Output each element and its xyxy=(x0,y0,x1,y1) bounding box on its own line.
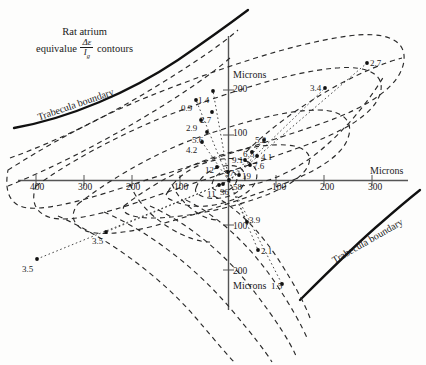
x-tick-label-100-left: 100 xyxy=(174,183,188,193)
data-point xyxy=(323,86,327,90)
x-tick-label-100-right: 100 xyxy=(272,183,286,193)
data-point xyxy=(221,182,225,186)
data-point-label: 11 xyxy=(207,190,216,199)
data-point-label: 2.7 xyxy=(200,116,211,125)
contour-arc-upper-1 xyxy=(10,30,238,158)
figure-container: Rat atrium equivalue Δε Ig contours xyxy=(0,0,426,365)
data-point xyxy=(205,130,209,134)
data-point xyxy=(35,257,39,261)
data-point-label: 0.9 xyxy=(181,104,192,113)
data-point-label: 9.1 xyxy=(232,156,243,165)
data-point-label: 3.9 xyxy=(249,216,260,225)
data-point xyxy=(215,165,219,169)
data-point xyxy=(365,61,369,65)
x-tick-label-300-right: 300 xyxy=(368,183,382,193)
y-tick-label-100-down: 100 xyxy=(233,222,247,232)
data-point xyxy=(248,163,252,167)
data-point-label: 5.6 xyxy=(192,136,203,145)
data-point-label: 36 xyxy=(220,188,229,197)
x-tick-label-300-left: 300 xyxy=(78,183,92,193)
contour-plot-svg xyxy=(0,0,426,365)
data-point-label: 6.5 xyxy=(243,150,254,159)
data-point-label: 2.7 xyxy=(370,59,381,68)
data-point-label: 5.2 xyxy=(255,136,266,145)
data-point-label: 7.6 xyxy=(253,162,264,171)
data-point xyxy=(104,230,108,234)
data-point-label: 1.5 xyxy=(271,282,282,291)
y-axis-unit-top: Microns xyxy=(233,70,266,80)
x-tick-label-200-right: 200 xyxy=(320,183,334,193)
equivalue-contours xyxy=(7,30,404,364)
x-tick-label-400-left: 400 xyxy=(30,183,44,193)
data-point-label: 4.1 xyxy=(261,153,272,162)
x-axis-unit-right: Microns xyxy=(370,166,403,176)
data-point-label: 19 xyxy=(242,172,251,181)
contour-arc-lower-5 xyxy=(58,216,236,364)
data-point xyxy=(211,89,215,93)
y-tick-label-200-down: 200 xyxy=(233,267,247,277)
y-axis-unit-bottom: Microns xyxy=(233,281,266,291)
data-point-label: 3.4 xyxy=(310,84,321,93)
data-point xyxy=(256,248,260,252)
data-point-label: 2.1 xyxy=(261,247,272,256)
data-point-label: 37 xyxy=(225,169,234,178)
y-tick-label-200-up: 200 xyxy=(233,85,247,95)
data-point-label: 2.9 xyxy=(186,124,197,133)
data-point-label: 4.2 xyxy=(186,146,197,155)
data-point-label: 12 xyxy=(205,166,214,175)
x-tick-label-200-left: 200 xyxy=(126,183,140,193)
data-point-label: 3.5 xyxy=(92,237,103,246)
data-point xyxy=(255,154,259,158)
data-point-label: 3.5 xyxy=(22,265,33,274)
data-point xyxy=(227,178,231,182)
data-point xyxy=(210,110,214,114)
radial-track-lower-left-1 xyxy=(37,181,229,259)
y-tick-label-100-up: 100 xyxy=(233,129,247,139)
data-point xyxy=(237,173,241,177)
data-point-label: 1.4 xyxy=(198,96,209,105)
data-point-label: 58 xyxy=(233,183,242,192)
